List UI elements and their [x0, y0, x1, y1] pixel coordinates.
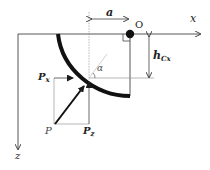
x-axis-label: x: [190, 13, 196, 24]
curved-surface: [58, 34, 130, 96]
curved-surface-force-diagram: [0, 0, 210, 170]
px-label: Px: [38, 72, 50, 83]
p-resultant-arrow: [55, 86, 84, 124]
hcx-label: hCx: [153, 50, 171, 62]
origin-label: O: [135, 20, 143, 30]
pz-label: Pz: [83, 126, 95, 137]
alpha-label: α: [97, 64, 103, 73]
angle-arc: [93, 73, 95, 78]
z-axis-label: z: [15, 151, 20, 161]
a-label: a: [106, 7, 113, 18]
p-label: P: [45, 126, 52, 136]
origin-point: [126, 30, 134, 38]
